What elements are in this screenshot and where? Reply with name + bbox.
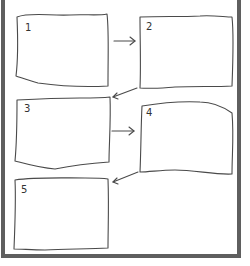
arrow-3-to-4 [112,127,134,135]
box-5-label: 5 [21,185,27,195]
box-2 [140,16,233,89]
box-3-label: 3 [24,104,30,114]
box-1-label: 1 [25,23,31,33]
arrow-2-to-3 [113,88,137,99]
box-2-label: 2 [146,22,152,32]
arrow-4-to-5 [113,172,138,184]
arrow-1-to-2 [114,37,135,45]
storyboard-sketch [0,0,250,266]
box-4 [140,102,233,174]
box-4-label: 4 [146,108,152,118]
box-5 [14,178,108,250]
